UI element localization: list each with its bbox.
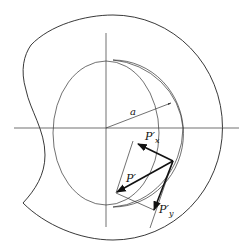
- construction-line: [116, 193, 154, 210]
- radius-arrow: [106, 103, 171, 128]
- force-x-label: P′x: [144, 130, 160, 145]
- radius-label: a: [130, 106, 136, 117]
- mechanics-diagram: a P′x P′ P′y: [0, 0, 251, 252]
- force-y-label: P′y: [158, 203, 174, 218]
- force-total-label: P′: [125, 172, 136, 185]
